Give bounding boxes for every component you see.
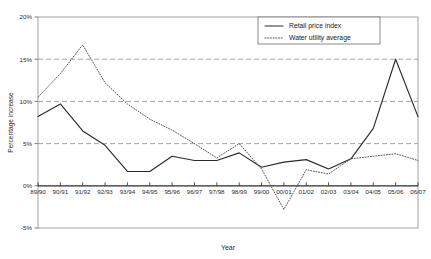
x-tick-label: 04/05 — [366, 188, 382, 195]
chart-container: -5%0%5%10%15%20%89/9090/9191/9292/9393/9… — [0, 0, 431, 259]
y-axis-title: Percentage increase — [7, 92, 15, 153]
y-tick-label: 15% — [20, 56, 33, 63]
x-tick-label: 03/04 — [343, 188, 359, 195]
x-axis-title: Year — [221, 244, 236, 251]
x-tick-label: 91/92 — [75, 188, 91, 195]
x-tick-label: 01/02 — [298, 188, 314, 195]
y-tick-label: 5% — [23, 140, 32, 147]
y-tick-label: 20% — [20, 13, 33, 20]
x-tick-label: 90/91 — [53, 188, 69, 195]
x-tick-label: 93/94 — [120, 188, 136, 195]
line-chart: -5%0%5%10%15%20%89/9090/9191/9292/9393/9… — [0, 0, 431, 259]
x-tick-label: 94/95 — [142, 188, 158, 195]
x-tick-label: 89/90 — [30, 188, 46, 195]
x-tick-label: 00/01 — [276, 188, 292, 195]
x-tick-label: 99/00 — [254, 188, 270, 195]
legend-label-0: Retail price index — [289, 22, 342, 30]
x-tick-label: 02/03 — [321, 188, 337, 195]
y-tick-label: 10% — [20, 98, 33, 105]
x-tick-label: 96/97 — [187, 188, 203, 195]
x-tick-label: 97/98 — [209, 188, 225, 195]
x-tick-label: 98/99 — [231, 188, 247, 195]
x-tick-label: 95/96 — [164, 188, 180, 195]
x-tick-label: 92/93 — [97, 188, 113, 195]
legend-label-1: Water utility average — [289, 34, 351, 42]
y-tick-label: -5% — [21, 224, 33, 231]
x-tick-label: 06/07 — [410, 188, 426, 195]
x-tick-label: 05/06 — [388, 188, 404, 195]
